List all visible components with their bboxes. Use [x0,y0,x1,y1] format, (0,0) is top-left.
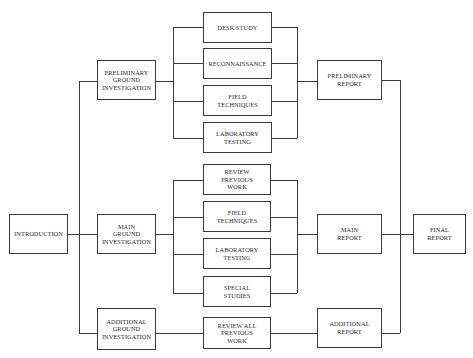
node-reconnaissance: RECONNAISSANCE [203,48,272,79]
node-review-previous-work: REVIEW PREVIOUS WORK [203,164,271,195]
node-field-techniques-main: FIELD TECHNIQUES [203,201,271,232]
node-additional-report: ADDITIONAL REPORT [317,308,382,348]
node-desk-study: DESK STUDY [203,12,272,43]
node-preliminary-ground-investigation: PRELIMINARY GROUND INVESTIGATION [97,60,156,100]
node-introduction: INTRODUCTION [9,214,68,254]
node-additional-ground-investigation: ADDITIONAL GROUND INVESTIGATION [97,308,156,350]
node-final-report: FINAL REPORT [413,214,466,254]
node-special-studies: SPECIAL STUDIES [203,276,271,307]
node-laboratory-testing-preliminary: LABORATORY TESTING [203,122,272,153]
node-review-all-previous-work: REVIEW ALL PREVIOUS WORK [203,317,271,349]
node-preliminary-report: PRELIMINARY REPORT [317,60,382,100]
flowchart-canvas: INTRODUCTION PRELIMINARY GROUND INVESTIG… [0,0,473,358]
node-field-techniques-preliminary: FIELD TECHNIQUES [203,85,272,116]
node-main-report: MAIN REPORT [317,214,382,254]
node-main-ground-investigation: MAIN GROUND INVESTIGATION [97,214,156,254]
node-laboratory-testing-main: LABORATORY TESTING [203,238,271,269]
